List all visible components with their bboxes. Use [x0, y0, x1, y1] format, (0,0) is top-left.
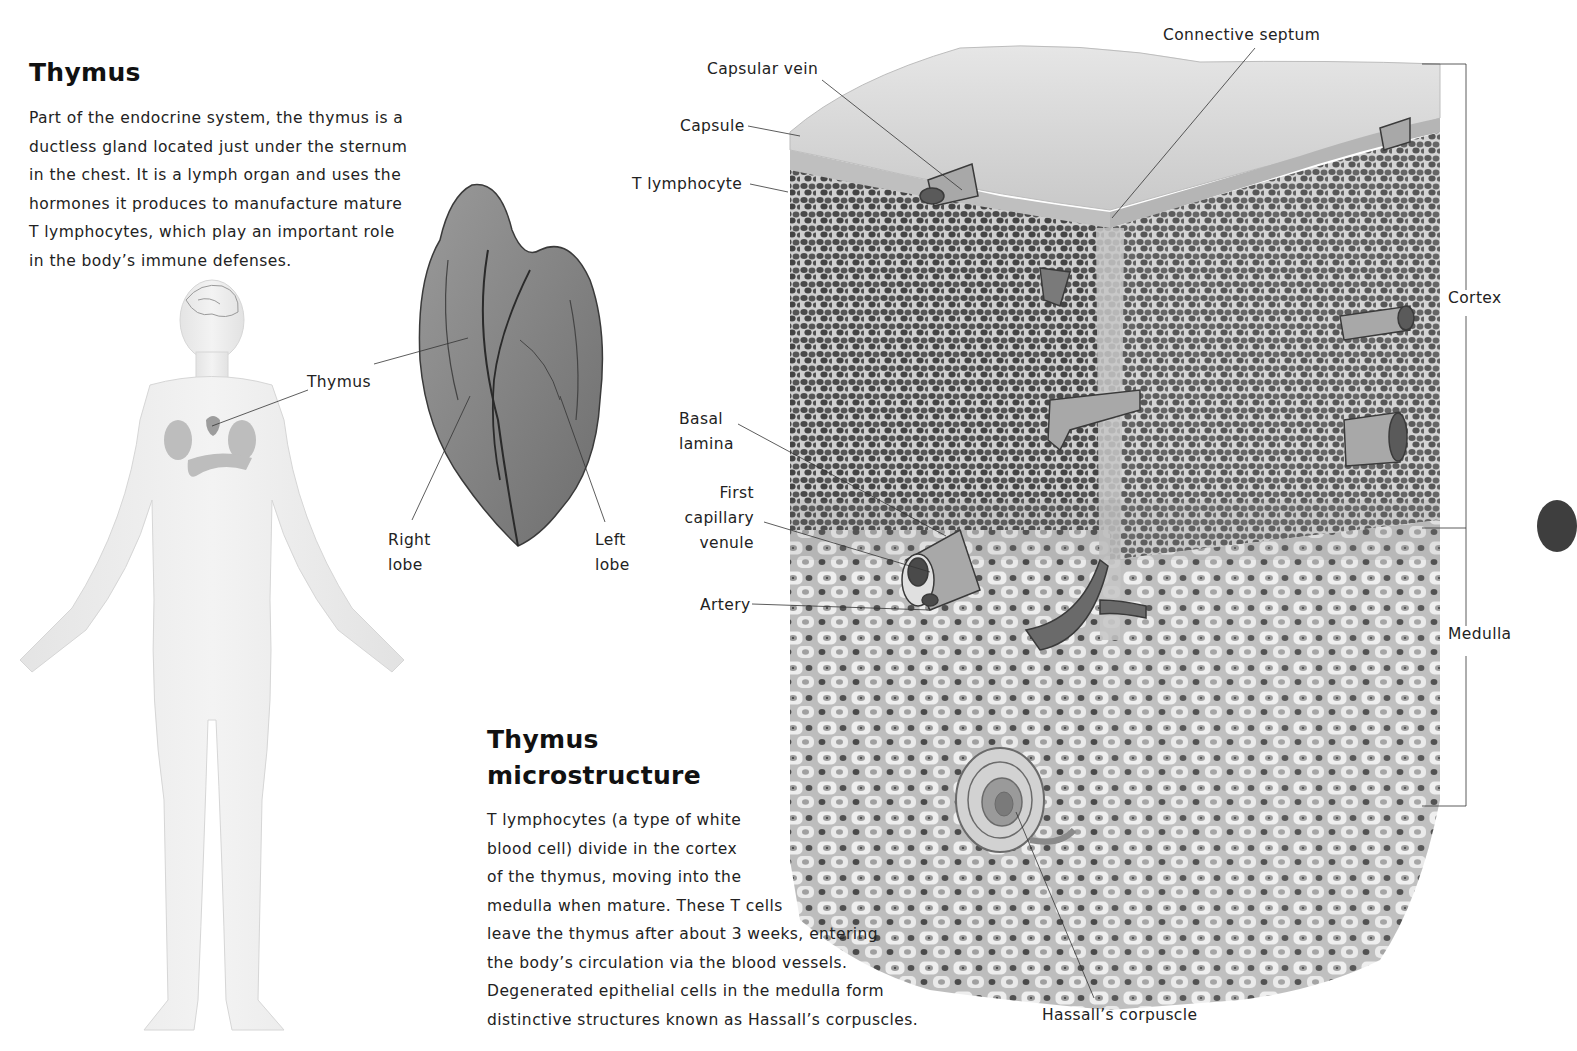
micro-line: the body’s circulation via the blood ves…	[487, 949, 957, 978]
label-first-capillary-venule: First capillary venule	[654, 481, 754, 556]
micro-line: leave the thymus after about 3 weeks, en…	[487, 920, 957, 949]
label-connective-septum: Connective septum	[1163, 23, 1320, 48]
micro-paragraph: T lymphocytes (a type of white blood cel…	[487, 806, 957, 1034]
label-left-lobe: Left lobe	[595, 528, 630, 578]
micro-line: Degenerated epithelial cells in the medu…	[487, 977, 957, 1006]
micro-line: medulla when mature. These T cells	[487, 892, 957, 921]
label-cortex: Cortex	[1448, 286, 1502, 311]
label-right-lobe: Right lobe	[388, 528, 431, 578]
kidneys-pancreas-icon	[164, 420, 256, 477]
label-thymus: Thymus	[307, 370, 371, 395]
micro-line: of the thymus, moving into the	[487, 863, 957, 892]
label-capsular-vein: Capsular vein	[707, 57, 818, 82]
brain-icon	[186, 285, 238, 316]
intro-title: Thymus	[29, 58, 141, 87]
intro-line: Part of the endocrine system, the thymus…	[29, 104, 449, 133]
body-thymus-marker	[206, 416, 220, 436]
label-medulla: Medulla	[1448, 622, 1511, 647]
micro-title: Thymus microstructure	[487, 722, 701, 794]
label-hassalls-corpuscle: Hassall’s corpuscle	[1042, 1003, 1197, 1028]
label-t-lymphocyte: T lymphocyte	[632, 172, 742, 197]
micro-line: distinctive structures known as Hassall’…	[487, 1006, 957, 1035]
page-tab-marker	[1537, 500, 1577, 552]
intro-line: T lymphocytes, which play an important r…	[29, 218, 449, 247]
gland-leader-lines	[374, 338, 605, 522]
intro-paragraph: Part of the endocrine system, the thymus…	[29, 104, 449, 275]
label-capsule: Capsule	[680, 114, 745, 139]
intro-line: in the chest. It is a lymph organ and us…	[29, 161, 449, 190]
label-basal-lamina: Basal lamina	[679, 407, 734, 457]
label-artery: Artery	[700, 593, 751, 618]
hassalls-corpuscle	[956, 748, 1074, 852]
micro-line: T lymphocytes (a type of white	[487, 806, 957, 835]
intro-line: in the body’s immune defenses.	[29, 247, 449, 276]
micro-line: blood cell) divide in the cortex	[487, 835, 957, 864]
intro-line: hormones it produces to manufacture matu…	[29, 190, 449, 219]
intro-line: ductless gland located just under the st…	[29, 133, 449, 162]
